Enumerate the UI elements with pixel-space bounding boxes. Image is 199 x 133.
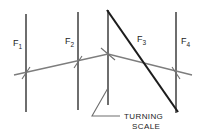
callout-text-group: TURNING SCALE	[124, 112, 163, 131]
tick-mark-group	[22, 48, 180, 79]
diagram-canvas: F1 F2 F3 F4 TURNING SCALE	[0, 0, 199, 133]
funicular-polygon-line	[14, 54, 192, 75]
force-label-f3-subscript: 3	[143, 39, 147, 46]
force-label-f1-subscript: 1	[19, 43, 23, 50]
force-line-group	[26, 10, 176, 113]
force-label-f4: F4	[181, 36, 191, 48]
closing-line-group	[107, 10, 178, 112]
callout-leader-line	[92, 88, 120, 116]
callout-leader-group	[92, 88, 120, 116]
force-diagram-figure: F1 F2 F3 F4 TURNING SCALE	[0, 0, 199, 133]
callout-label-line2: SCALE	[132, 122, 160, 131]
force-label-f3: F3	[137, 34, 147, 46]
force-label-f4-subscript: 4	[187, 41, 191, 48]
force-label-f1: F1	[13, 38, 23, 50]
callout-label-line1: TURNING	[124, 112, 163, 121]
funicular-polygon-group	[14, 54, 192, 75]
force-label-f2-subscript: 2	[71, 41, 75, 48]
force-label-f2: F2	[65, 36, 75, 48]
closing-line	[107, 10, 178, 112]
force-label-group: F1 F2 F3 F4	[13, 34, 191, 50]
